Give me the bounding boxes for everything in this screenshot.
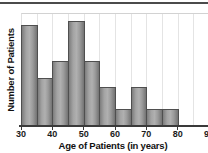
x-tick-label: 40 [42,129,62,139]
x-tick-label: 30 [11,129,31,139]
x-axis-title: Age of Patients (in years) [21,140,205,151]
histogram-bar [99,87,116,127]
x-tick-label: 90 [199,129,208,139]
top-rule-line [0,2,208,4]
x-tick-label: 60 [105,129,125,139]
histogram-bar [84,61,101,127]
histogram-bar [68,21,85,127]
y-axis-title: Number of Patients [5,20,17,120]
plot-area [21,13,208,127]
x-axis-line [19,125,208,127]
x-tick-label: 80 [168,129,188,139]
histogram-bar [131,87,148,127]
x-tick-label: 50 [74,129,94,139]
histogram-bar [37,78,54,127]
histogram-bar [52,61,69,127]
x-tick-label: 70 [136,129,156,139]
histogram-chart: Number of Patients Age of Patients (in y… [0,0,208,153]
histogram-bar [21,25,38,127]
gridline [193,14,194,127]
